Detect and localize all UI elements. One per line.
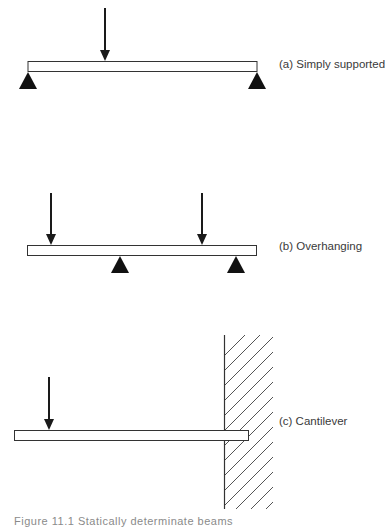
- label-cantilever: (c) Cantilever: [279, 415, 347, 427]
- overhanging-beam-diagram: [28, 193, 257, 273]
- pin-support-icon: [227, 256, 245, 273]
- label-overhanging: (b) Overhanging: [279, 240, 362, 252]
- pin-support-icon: [111, 256, 129, 273]
- arrowhead-icon: [100, 50, 110, 61]
- pin-support-icon: [19, 72, 37, 89]
- pin-support-icon: [248, 72, 266, 89]
- label-simply-supported: (a) Simply supported: [279, 58, 385, 70]
- cantilever-beam-diagram: [15, 305, 276, 523]
- fixed-wall-hatching: [225, 305, 275, 523]
- beam: [28, 62, 257, 72]
- simply-supported-beam-diagram: [19, 8, 266, 89]
- figure-caption: Figure 11.1 Statically determinate beams: [14, 515, 233, 527]
- beam: [15, 431, 249, 441]
- beam: [28, 246, 257, 256]
